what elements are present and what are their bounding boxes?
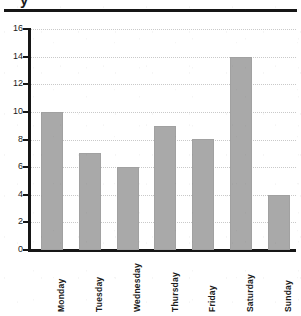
y-axis-tick: [23, 83, 29, 85]
bar-series: [31, 29, 296, 250]
y-axis-tick: [23, 221, 29, 223]
bar: [79, 153, 101, 250]
y-axis-tick-label: 4: [0, 190, 23, 199]
y-axis-tick-label: 8: [0, 135, 23, 144]
y-axis-tick-label: 2: [0, 217, 23, 226]
bar: [41, 112, 63, 250]
y-axis-tick: [23, 56, 29, 58]
bar: [192, 139, 214, 250]
y-axis-tick: [23, 139, 29, 141]
y-axis-tick: [23, 28, 29, 30]
y-axis-tick: [23, 249, 29, 251]
y-axis-tick-label: 10: [0, 107, 23, 116]
y-axis-tick-label: 6: [0, 162, 23, 171]
y-axis-tick-label: 0: [0, 245, 23, 254]
y-axis-tick: [23, 166, 29, 168]
y-axis-tick-label: 14: [0, 52, 23, 61]
y-axis-tick: [23, 194, 29, 196]
header-rule: [4, 9, 297, 12]
x-axis-labels: MondayTuesdayWednesdayThursdayFridaySatu…: [31, 254, 296, 314]
y-axis-tick: [23, 111, 29, 113]
clipped-header-text: y: [20, 0, 50, 9]
bar: [117, 167, 139, 250]
y-axis-tick-label: 12: [0, 79, 23, 88]
y-axis-tick-label: 16: [0, 24, 23, 33]
chart-figure: y 0246810121416 MondayTuesdayWednesdayTh…: [0, 0, 301, 316]
bar: [154, 126, 176, 250]
bar: [268, 195, 290, 250]
x-axis-label: Sunday: [283, 254, 301, 312]
bar: [230, 57, 252, 250]
